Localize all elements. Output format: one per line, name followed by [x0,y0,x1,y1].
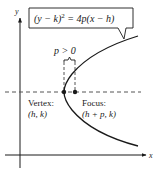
vertex-point [62,90,66,94]
condition-label: p > 0 [53,45,76,56]
y-axis-label: y [14,7,19,16]
focus-point [73,90,77,94]
focus-label: Focus: [82,98,106,108]
vertex-label: Vertex: [28,98,54,108]
parabola-diagram: y x (y − k)2 = 4p(x − h) p > 0 Vertex: (… [0,0,159,171]
vertex-coords: (h, k) [28,109,47,119]
equation-text: (y − k)2 = 4p(x − h) [34,12,115,25]
x-axis-label: x [148,151,153,160]
focus-coords: (h + p, k) [82,109,116,119]
p-bracket [64,57,75,62]
